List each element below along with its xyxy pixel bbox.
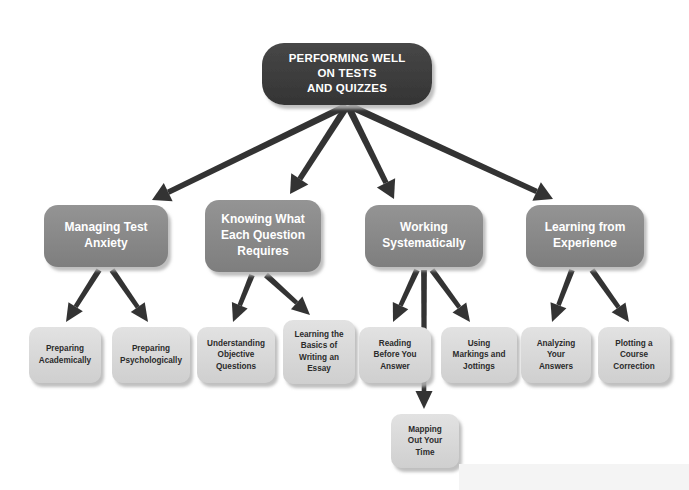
conn-learning-to-plotting-course <box>590 268 629 322</box>
leaf-analyzing-your-answers[interactable]: AnalyzingYourAnswers <box>521 327 591 383</box>
leaf-preparing-academically[interactable]: PreparingAcademically <box>29 327 101 383</box>
branch-working-systematically[interactable]: WorkingSystematically <box>365 205 483 267</box>
leaf-using-markings-and-jottings[interactable]: UsingMarkings andJottings <box>441 327 517 383</box>
conn-root-to-learning-from-experience <box>349 103 553 201</box>
leaf-plotting-a-course-correction[interactable]: Plotting aCourseCorrection <box>598 327 670 383</box>
leaf-preparing-psychologically-shape <box>112 327 190 383</box>
branch-learning-from-experience[interactable]: Learning fromExperience <box>526 205 644 267</box>
conn-managing-to-preparing-academically <box>66 268 101 322</box>
tree-diagram: PERFORMING WELLON TESTSAND QUIZZESManagi… <box>0 0 689 490</box>
branch-learning-from-experience-shape <box>526 205 644 267</box>
leaf-preparing-academically-shape <box>29 327 101 383</box>
leaf-preparing-psychologically[interactable]: PreparingPsychologically <box>112 327 190 383</box>
leaf-plotting-a-course-correction-shape <box>598 327 670 383</box>
branch-knowing-what-each-question-requires[interactable]: Knowing WhatEach QuestionRequires <box>205 200 321 272</box>
leaf-learning-basics-writing-essay-shape <box>283 320 355 384</box>
root[interactable]: PERFORMING WELLON TESTSAND QUIZZES <box>262 43 432 105</box>
leaf-learning-basics-writing-essay[interactable]: Learning theBasics ofWriting anEssay <box>283 320 355 384</box>
leaf-using-markings-and-jottings-shape <box>441 327 517 383</box>
branch-knowing-what-each-question-requires-shape <box>205 200 321 272</box>
conn-working-to-reading-before <box>393 269 420 322</box>
conn-working-to-using-markings <box>430 268 470 322</box>
branch-managing-test-anxiety[interactable]: Managing TestAnxiety <box>44 205 168 267</box>
conn-knowing-to-understanding-objective <box>232 274 255 322</box>
leaf-reading-before-you-answer-shape <box>359 327 431 383</box>
leaf-mapping-out-your-time-shape <box>391 414 459 468</box>
leaf-reading-before-you-answer[interactable]: ReadingBefore YouAnswer <box>359 327 431 383</box>
conn-knowing-to-learning-basics <box>264 273 310 315</box>
diagram-canvas: PERFORMING WELLON TESTSAND QUIZZESManagi… <box>0 0 689 490</box>
branch-working-systematically-shape <box>365 205 483 267</box>
leaf-understanding-objective-questions[interactable]: UnderstandingObjectiveQuestions <box>197 327 275 383</box>
conn-learning-to-analyzing-your-answers <box>551 269 575 322</box>
leaf-understanding-objective-questions-shape <box>197 327 275 383</box>
leaf-analyzing-your-answers-shape <box>521 327 591 383</box>
leaf-mapping-out-your-time[interactable]: MappingOut YourTime <box>391 414 459 468</box>
root-shape <box>262 43 432 105</box>
conn-managing-to-preparing-psychologically <box>110 268 148 322</box>
branch-managing-test-anxiety-shape <box>44 205 168 267</box>
